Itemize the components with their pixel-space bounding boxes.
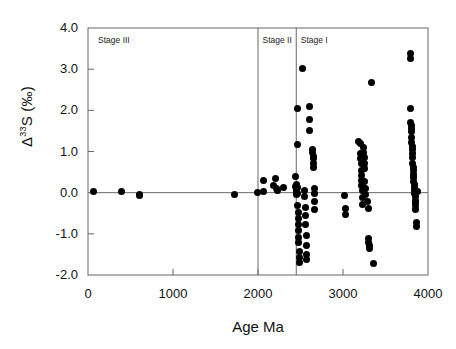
scatter-point <box>342 211 349 218</box>
scatter-point <box>294 202 301 209</box>
scatter-point <box>370 260 377 267</box>
plot-axes <box>0 0 456 349</box>
stage-label: Stage III <box>98 35 130 45</box>
stage-label: Stage II <box>263 35 292 45</box>
chart-figure: Δ33S (‰) Age Ma 4.03.02.01.00.0-1.0-2.0 … <box>0 0 456 349</box>
scatter-point <box>299 65 306 72</box>
scatter-point <box>306 103 313 110</box>
scatter-point <box>302 204 309 211</box>
stage-label: Stage I <box>301 35 328 45</box>
scatter-point <box>306 127 313 134</box>
scatter-point <box>302 212 309 219</box>
scatter-point <box>292 173 299 180</box>
scatter-point <box>303 242 310 249</box>
scatter-point <box>365 205 372 212</box>
scatter-point <box>407 105 414 112</box>
scatter-point <box>294 141 301 148</box>
scatter-point <box>306 116 313 123</box>
scatter-point <box>272 175 279 182</box>
scatter-point <box>303 232 310 239</box>
scatter-point <box>118 188 125 195</box>
scatter-point <box>366 245 373 252</box>
scatter-point <box>231 191 238 198</box>
scatter-point <box>260 177 267 184</box>
scatter-point <box>294 105 301 112</box>
scatter-point <box>311 190 318 197</box>
scatter-point <box>90 188 97 195</box>
